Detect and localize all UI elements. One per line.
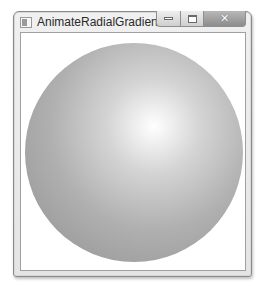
window-controls: ✕ — [156, 11, 246, 28]
maximize-button[interactable] — [181, 11, 204, 27]
close-button[interactable]: ✕ — [204, 11, 246, 27]
app-icon[interactable] — [20, 17, 32, 28]
window-title: AnimateRadialGradient — [37, 15, 161, 29]
minimize-icon — [164, 17, 173, 20]
client-area — [20, 32, 246, 271]
title-bar[interactable]: AnimateRadialGradient ✕ — [14, 12, 251, 32]
maximize-icon — [188, 15, 197, 23]
app-window: AnimateRadialGradient ✕ — [13, 11, 252, 277]
close-icon: ✕ — [220, 13, 229, 24]
radial-gradient-ellipse — [25, 43, 243, 262]
minimize-button[interactable] — [156, 11, 181, 27]
